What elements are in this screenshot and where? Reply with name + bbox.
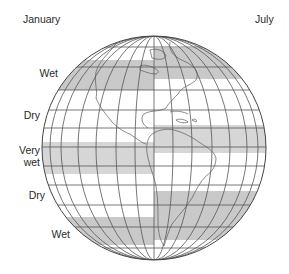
wet-north-label: Wet [40, 68, 58, 79]
globe-diagram [0, 0, 289, 274]
wet-south-label: Wet [52, 229, 70, 240]
dry-north-label: Dry [24, 110, 40, 121]
january-label: January [23, 14, 60, 25]
dry-south-label: Dry [29, 190, 45, 201]
very-wet-label-line1: Very [19, 145, 40, 156]
very-wet-label-line2: wet [24, 157, 40, 168]
july-label: July [255, 14, 274, 25]
